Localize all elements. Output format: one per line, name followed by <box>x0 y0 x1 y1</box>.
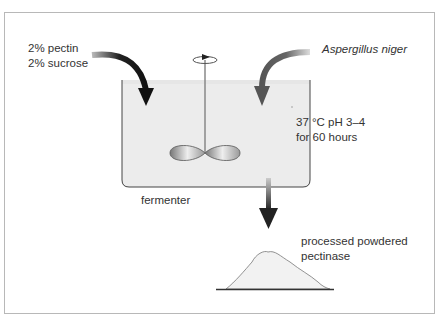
pectin-label: 2% pectin <box>28 41 88 56</box>
nutrient-label: 2% pectin 2% sucrose <box>28 41 88 71</box>
product-label-line1: processed powdered <box>301 234 408 249</box>
product-label: processed powdered pectinase <box>301 234 408 264</box>
rotation-arrow-icon <box>202 54 210 60</box>
conditions-label: 37 °C pH 3–4 for 60 hours <box>296 115 365 145</box>
organism-label: Aspergillus niger <box>322 42 407 57</box>
fermenter-label: fermenter <box>141 193 190 208</box>
product-label-line2: pectinase <box>301 249 408 264</box>
sucrose-label: 2% sucrose <box>28 56 88 71</box>
duration-label: for 60 hours <box>296 130 365 145</box>
temperature-ph-label: 37 °C pH 3–4 <box>296 115 365 130</box>
